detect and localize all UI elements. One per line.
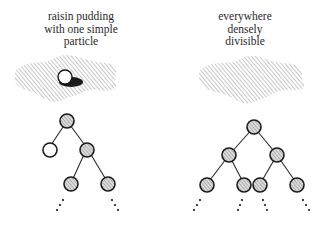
hatched-node-icon (80, 143, 94, 157)
hatched-node-icon (64, 177, 78, 191)
right-tree-nodes (200, 120, 304, 192)
hatched-node-icon (247, 120, 261, 134)
diagram-canvas (0, 0, 328, 227)
hatched-node-icon (222, 148, 236, 162)
right-continuation-dots (193, 199, 310, 211)
hatched-node-icon (200, 178, 214, 192)
right-pudding-blob (199, 56, 304, 104)
left-tree-nodes (43, 114, 115, 191)
hatched-node-icon (101, 177, 115, 191)
left-continuation-dots (56, 199, 119, 211)
hatched-node-icon (290, 178, 304, 192)
hatched-node-icon (253, 178, 267, 192)
hatched-node-icon (237, 178, 251, 192)
hatched-node-icon (270, 148, 284, 162)
left-tree-edges (49, 121, 108, 183)
hatched-node-icon (60, 114, 74, 128)
white-leaf-node-icon (43, 143, 57, 157)
